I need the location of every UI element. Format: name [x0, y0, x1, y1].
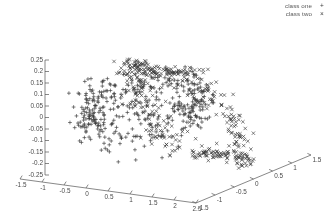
legend-marker-cross-icon: ×	[312, 10, 332, 18]
legend-item-class-two: class two ×	[285, 10, 332, 18]
legend-marker-plus-icon: +	[312, 2, 332, 10]
chart-legend: class one + class two ×	[285, 2, 332, 17]
legend-label-class-one: class one	[285, 2, 312, 10]
scatter-plot-figure: class one + class two ×	[0, 0, 336, 223]
plot-canvas	[0, 0, 336, 223]
legend-label-class-two: class two	[286, 10, 312, 18]
legend-item-class-one: class one +	[285, 2, 332, 10]
